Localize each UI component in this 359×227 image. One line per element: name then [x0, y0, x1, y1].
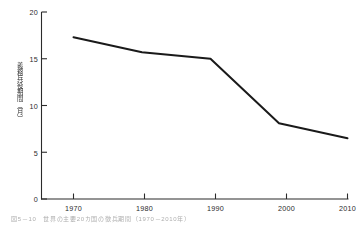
y-tick-label-10: 10: [22, 102, 38, 111]
data-series-line: [74, 37, 348, 138]
x-tick-label-2010: 2010: [328, 204, 359, 213]
y-tick-label-5: 5: [22, 149, 38, 158]
y-axis-ticks: [42, 12, 48, 199]
x-tick-label-1990: 1990: [196, 204, 236, 213]
x-tick-label-1980: 1980: [125, 204, 165, 213]
figure-caption: 図5－10 世界の主要20カ国の徴兵期間（1970－2010年）: [11, 215, 351, 225]
y-tick-label-0: 0: [22, 195, 38, 204]
y-axis-label: 義務兵役期間（月）: [10, 62, 23, 121]
x-tick-label-1970: 1970: [54, 204, 94, 213]
x-axis-ticks: [74, 194, 348, 200]
y-tick-label-15: 15: [22, 55, 38, 64]
x-tick-label-2000: 2000: [267, 204, 307, 213]
figure-container: 20 15 10 5 0 1970 1980 1990 2000 2010 義務…: [0, 0, 359, 227]
line-chart-plot: [0, 0, 359, 227]
y-tick-label-20: 20: [22, 8, 38, 17]
